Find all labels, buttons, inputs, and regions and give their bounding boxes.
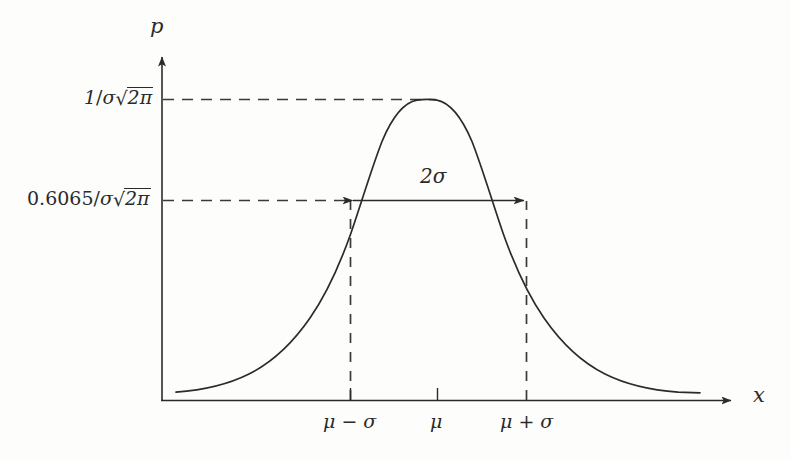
y-axis-label: p (150, 16, 163, 37)
y-tick-inflection-radicand: 2π (124, 188, 151, 208)
x-tick-label-mu: μ (430, 412, 442, 431)
y-tick-label-inflection: 0.6065/σ√2π (27, 188, 151, 208)
gaussian-curve (176, 99, 700, 393)
y-tick-peak-radical: √2π (115, 87, 153, 107)
surd-icon: √ (113, 190, 125, 209)
two-sigma-label: 2σ (420, 166, 446, 186)
normal-distribution-figure: p x 1/σ√2π 0.6065/σ√2π μ − σ μ μ + σ 2σ (0, 0, 791, 461)
figure-canvas (0, 0, 791, 461)
x-axis-label: x (753, 385, 765, 406)
y-tick-label-peak: 1/σ√2π (84, 87, 153, 107)
y-tick-inflection-numerator: 0.6065 (27, 187, 93, 209)
surd-icon: √ (115, 89, 127, 108)
y-tick-inflection-radical: √2π (113, 188, 151, 208)
x-tick-label-mu-plus-sigma: μ + σ (500, 412, 553, 431)
y-tick-inflection-sigma: σ (100, 187, 113, 209)
x-tick-label-mu-minus-sigma: μ − σ (323, 412, 376, 431)
y-tick-peak-radicand: 2π (127, 87, 154, 107)
y-tick-peak-numerator: 1 (84, 86, 96, 108)
y-tick-peak-sigma: σ (103, 86, 116, 108)
